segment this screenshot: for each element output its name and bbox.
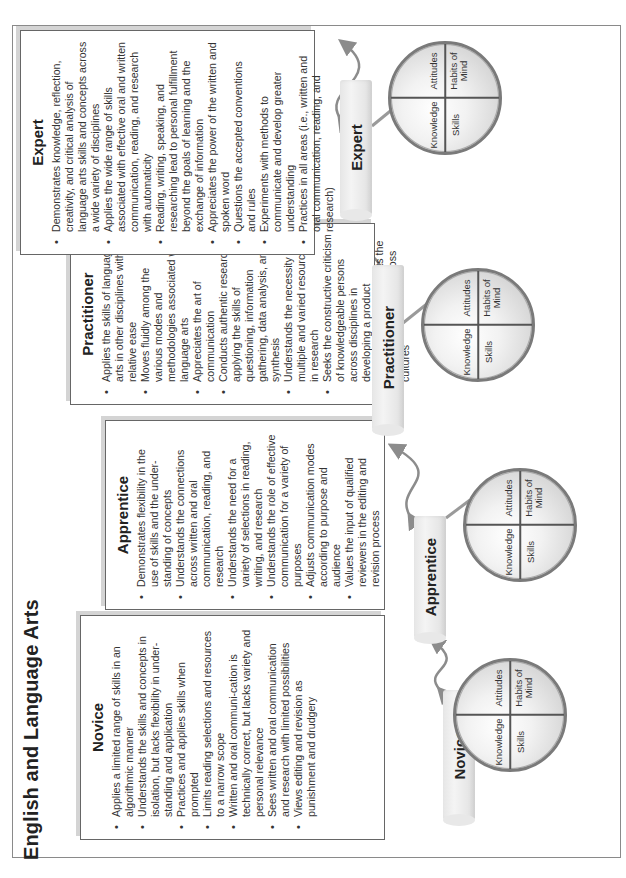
expert-heading: Expert <box>29 41 46 244</box>
list-item: Understands the need for a variety of se… <box>226 431 265 599</box>
quadrant-habits-of-mind: Habits of Mind <box>510 661 564 715</box>
quadrant-knowledge: Knowledge <box>466 525 520 579</box>
list-item: Demonstrates knowledge, reflection, crea… <box>50 41 102 244</box>
novice-box: Novice Applies a limited range of skills… <box>80 615 385 840</box>
practitioner-heading: Practitioner <box>79 234 96 394</box>
list-item: Practices and applies skills when prompt… <box>175 626 201 829</box>
quadrant-habits-of-mind: Habits of Mind <box>478 271 532 325</box>
novice-competency-circle: Knowledge Attitudes Skills Habits of Min… <box>453 658 567 772</box>
quadrant-attitudes: Attitudes <box>424 271 478 325</box>
quadrant-attitudes: Attitudes <box>391 44 445 98</box>
page-title: English and Language Arts <box>20 599 43 860</box>
list-item: Demonstrates flexibility in the use of s… <box>135 431 174 599</box>
apprentice-competency-circle: Knowledge Attitudes Skills Habits of Min… <box>463 468 577 582</box>
apprentice-bullets: Demonstrates flexibility in the use of s… <box>135 431 382 599</box>
list-item: Conducts authentic research applying the… <box>217 234 282 394</box>
list-item: Values the input of qualified reviewers … <box>343 431 382 599</box>
expert-competency-circle: Knowledge Attitudes Skills Habits of Min… <box>388 41 502 155</box>
list-item: Experiments with methods to communicate … <box>258 41 297 244</box>
list-item: Applies a limited range of skills in an … <box>110 626 136 829</box>
practitioner-stage-label: Practitioner <box>380 306 397 389</box>
list-item: Applies the wide range of skills associa… <box>102 41 154 244</box>
novice-bullets: Applies a limited range of skills in an … <box>110 626 318 829</box>
quadrant-knowledge: Knowledge <box>456 715 510 769</box>
list-item: Practices in all areas (i.e., written an… <box>297 41 336 244</box>
quadrant-attitudes: Attitudes <box>456 661 510 715</box>
list-item: Limits reading selections and resources … <box>201 626 227 829</box>
list-item: Applies the skills of language arts in o… <box>100 234 139 394</box>
expert-box: Expert Demonstrates knowledge, reflectio… <box>20 30 315 255</box>
quadrant-habits-of-mind: Habits of Mind <box>445 44 499 98</box>
list-item: Understands the role of effective commun… <box>265 431 304 599</box>
list-item: Seeks the constructive criticism of know… <box>321 234 373 394</box>
practitioner-stage-pill: Practitioner <box>372 265 404 430</box>
quadrant-skills: Skills <box>445 98 499 152</box>
apprentice-stage-pill: Apprentice <box>414 516 446 638</box>
list-item: Adjusts communication modes according to… <box>304 431 343 599</box>
list-item: Appreciates the art of communication <box>191 234 217 394</box>
list-item: Reading, writing, speaking, and research… <box>154 41 206 244</box>
list-item: Sees written and oral communication and … <box>266 626 292 829</box>
list-item: Understands the skills and concepts in i… <box>136 626 175 829</box>
list-item: Questions the accepted conventions and r… <box>232 41 258 244</box>
list-item: Understands the necessity for multiple a… <box>282 234 321 394</box>
apprentice-box: Apprentice Demonstrates flexibility in t… <box>105 420 385 610</box>
expert-stage-label: Expert <box>348 124 365 171</box>
apprentice-stage-label: Apprentice <box>422 538 439 616</box>
apprentice-heading: Apprentice <box>114 431 131 599</box>
expert-stage-pill: Expert <box>340 80 372 215</box>
quadrant-skills: Skills <box>478 325 532 379</box>
quadrant-skills: Skills <box>520 525 574 579</box>
quadrant-knowledge: Knowledge <box>391 98 445 152</box>
list-item: Moves fluidly among the various modes an… <box>139 234 191 394</box>
practitioner-bullets: Applies the skills of language arts in o… <box>100 234 412 394</box>
practitioner-competency-circle: Knowledge Attitudes Skills Habits of Min… <box>421 268 535 382</box>
list-item: Understands the connections across writt… <box>174 431 226 599</box>
quadrant-knowledge: Knowledge <box>424 325 478 379</box>
quadrant-attitudes: Attitudes <box>466 471 520 525</box>
novice-heading: Novice <box>89 626 106 829</box>
expert-bullets: Demonstrates knowledge, reflection, crea… <box>50 41 336 244</box>
list-item: Views editing and revision as punishment… <box>292 626 318 829</box>
quadrant-skills: Skills <box>510 715 564 769</box>
rotated-page: English and Language Arts Novice Applies… <box>0 0 626 878</box>
list-item: Appreciates the power of the written and… <box>206 41 232 244</box>
quadrant-habits-of-mind: Habits of Mind <box>520 471 574 525</box>
list-item: Written and oral communi-cation is techn… <box>227 626 266 829</box>
